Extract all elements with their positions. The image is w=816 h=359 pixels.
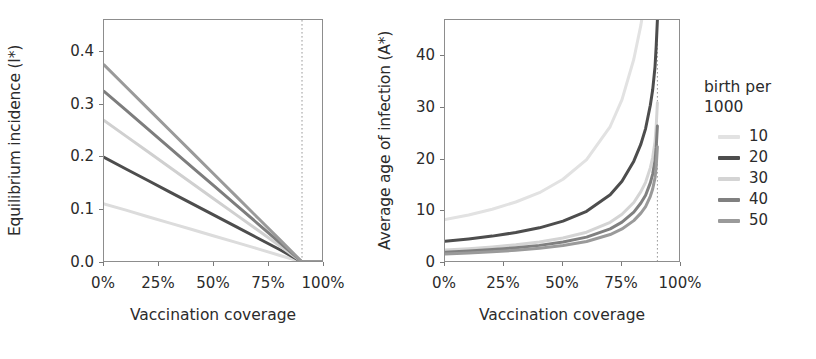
right-series-20 — [445, 20, 657, 241]
legend-swatch-10 — [718, 135, 740, 139]
right-y-tick-label: 0 — [425, 253, 435, 271]
left-x-tick-label: 75% — [251, 274, 284, 292]
left-series-50 — [104, 65, 323, 262]
right-y-tick-label: 20 — [416, 150, 435, 168]
legend-swatch-30 — [718, 177, 740, 181]
panel-average-age-infection: Average age of infection (A*) Vaccinatio… — [370, 0, 700, 359]
left-x-tick-mark — [213, 262, 214, 266]
left-y-tick-mark — [99, 51, 103, 52]
left-y-tick-label: 0.0 — [70, 253, 94, 271]
right-y-tick-mark — [440, 159, 444, 160]
left-y-tick-label: 0.4 — [70, 42, 94, 60]
right-y-tick-label: 30 — [416, 98, 435, 116]
left-y-tick-label: 0.2 — [70, 147, 94, 165]
right-x-tick-label: 100% — [659, 274, 702, 292]
legend-swatch-40 — [718, 198, 740, 202]
right-x-tick-label: 75% — [604, 274, 637, 292]
x-axis-label-left: Vaccination coverage — [103, 306, 323, 324]
left-x-tick-label: 50% — [196, 274, 229, 292]
legend-label-40: 40 — [749, 191, 768, 208]
right-x-tick-mark — [444, 262, 445, 266]
legend: birth per 1000 1020304050 — [700, 0, 816, 359]
right-series-10 — [445, 20, 657, 220]
left-x-tick-mark — [323, 262, 324, 266]
left-x-tick-mark — [158, 262, 159, 266]
panel-equilibrium-incidence: Equilibrium incidence (I*) Vaccination c… — [0, 0, 370, 359]
left-y-tick-label: 0.1 — [70, 200, 94, 218]
legend-item-40[interactable]: 40 — [718, 191, 768, 208]
left-series-canvas — [104, 20, 323, 262]
plot-area-left — [103, 19, 323, 262]
right-x-tick-mark — [621, 262, 622, 266]
right-x-tick-label: 50% — [545, 274, 578, 292]
legend-label-20: 20 — [749, 149, 768, 166]
right-x-tick-label: 0% — [432, 274, 456, 292]
left-series-30 — [104, 120, 323, 262]
right-y-tick-mark — [440, 210, 444, 211]
right-series-canvas — [445, 20, 680, 262]
right-x-tick-mark — [503, 262, 504, 266]
legend-label-10: 10 — [749, 128, 768, 145]
legend-label-50: 50 — [749, 212, 768, 229]
left-y-tick-label: 0.3 — [70, 95, 94, 113]
plot-area-right — [444, 19, 680, 262]
right-y-tick-mark — [440, 55, 444, 56]
legend-title-line2: 1000 — [704, 98, 743, 117]
left-x-tick-label: 0% — [91, 274, 115, 292]
left-x-tick-label: 100% — [302, 274, 345, 292]
y-axis-label-right: Average age of infection (A*) — [376, 15, 394, 266]
right-y-tick-mark — [440, 107, 444, 108]
legend-label-30: 30 — [749, 170, 768, 187]
right-y-tick-label: 40 — [416, 46, 435, 64]
left-x-tick-mark — [103, 262, 104, 266]
legend-item-10[interactable]: 10 — [718, 128, 768, 145]
legend-title-line1: birth per — [704, 78, 771, 97]
figure-panel-container: Equilibrium incidence (I*) Vaccination c… — [0, 0, 816, 359]
legend-item-50[interactable]: 50 — [718, 212, 768, 229]
right-x-tick-label: 25% — [486, 274, 519, 292]
right-series-40 — [445, 126, 657, 252]
right-y-tick-label: 10 — [416, 201, 435, 219]
right-x-tick-mark — [562, 262, 563, 266]
left-y-tick-mark — [99, 104, 103, 105]
legend-swatch-50 — [718, 219, 740, 223]
right-x-tick-mark — [680, 262, 681, 266]
left-x-tick-mark — [268, 262, 269, 266]
left-x-tick-label: 25% — [141, 274, 174, 292]
legend-swatch-20 — [718, 156, 740, 160]
y-axis-label-left: Equilibrium incidence (I*) — [6, 15, 24, 266]
x-axis-label-right: Vaccination coverage — [444, 306, 680, 324]
left-y-tick-mark — [99, 156, 103, 157]
left-y-tick-mark — [99, 209, 103, 210]
legend-item-30[interactable]: 30 — [718, 170, 768, 187]
legend-item-20[interactable]: 20 — [718, 149, 768, 166]
